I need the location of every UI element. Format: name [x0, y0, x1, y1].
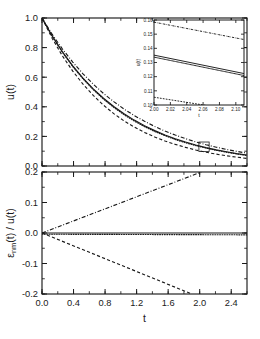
curve-dashed	[42, 233, 192, 294]
upper-yticklabel: 0.4	[25, 102, 38, 112]
ylabel-sub: nm	[9, 243, 18, 253]
inset-yticklabel: 0.15	[144, 32, 153, 37]
lower-xticklabel: 0.0	[36, 298, 49, 308]
lower-xticklabel: 2.4	[225, 298, 238, 308]
lower-ylabel: εnm(t) / u(t)	[4, 208, 18, 257]
upper-yticklabel: 1.0	[25, 13, 38, 23]
lower-yticklabel: 0.1	[25, 198, 38, 208]
inset-yticklabel: 0.13	[144, 60, 153, 65]
inset-xticklabel: 2.02	[166, 107, 175, 112]
inset-xticklabel: 2.08	[215, 107, 224, 112]
inset-panel: 0.100.110.120.130.140.150.162.002.022.04…	[135, 18, 244, 118]
inset-xticklabel: 2.06	[199, 107, 208, 112]
ylabel-rest: (t) / u(t)	[4, 208, 16, 242]
lower-xticklabel: 0.8	[99, 298, 112, 308]
inset-yticklabel: 0.11	[144, 89, 153, 94]
lower-yticklabel: 0.2	[25, 167, 38, 177]
lower-yticklabel: -0.1	[22, 259, 38, 269]
curve-dash-dot	[42, 172, 201, 233]
inset-xticklabel: 2.00	[150, 107, 159, 112]
inset-yticklabel: 0.14	[144, 46, 153, 51]
lower-xticklabel: 0.4	[67, 298, 80, 308]
figure-svg: 0.00.20.40.60.81.0u(t)0.100.110.120.130.…	[0, 0, 260, 339]
lower-yticklabel: 0.0	[25, 228, 38, 238]
curve-dotted	[42, 234, 247, 235]
inset-xlabel: t	[198, 112, 200, 118]
inset-yticklabel: 0.16	[144, 18, 153, 23]
inset-xticklabel: 2.10	[231, 107, 240, 112]
upper-ylabel: u(t)	[4, 84, 16, 100]
inset-xticklabel: 2.04	[182, 107, 191, 112]
inset-ylabel: u(t)	[135, 58, 141, 66]
lower-xticklabel: 2.0	[193, 298, 206, 308]
lower-xticklabel: 1.6	[162, 298, 175, 308]
lower-curves	[42, 172, 247, 294]
lower-xticklabel: 1.2	[130, 298, 143, 308]
lower-panel: -0.2-0.10.00.10.20.00.40.81.21.62.02.4εn…	[4, 167, 247, 308]
lower-ylabel-text: εnm(t) / u(t)	[4, 208, 18, 257]
inset-frame	[154, 20, 244, 105]
xlabel: t	[143, 312, 146, 324]
inset-yticklabel: 0.12	[144, 74, 153, 79]
figure-container: 0.00.20.40.60.81.0u(t)0.100.110.120.130.…	[0, 0, 260, 339]
upper-yticklabel: 0.6	[25, 73, 38, 83]
upper-yticklabel: 0.8	[25, 43, 38, 53]
upper-yticklabel: 0.2	[25, 132, 38, 142]
